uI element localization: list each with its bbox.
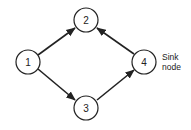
node-1: 1 [16, 50, 40, 74]
sink-node-label: Sink node [162, 52, 181, 72]
sink-label-line1: Sink [162, 52, 181, 62]
node-4: 4 [132, 50, 156, 74]
svg-text:3: 3 [83, 103, 89, 114]
svg-text:4: 4 [141, 57, 147, 68]
node-2: 2 [74, 8, 98, 32]
node-3: 3 [74, 96, 98, 120]
edge-3-4 [97, 70, 134, 100]
sink-label-line2: node [162, 62, 181, 72]
edge-1-2 [38, 28, 75, 55]
svg-text:1: 1 [25, 57, 31, 68]
edge-4-2 [97, 28, 134, 54]
edge-1-3 [38, 69, 75, 100]
svg-text:2: 2 [83, 15, 89, 26]
